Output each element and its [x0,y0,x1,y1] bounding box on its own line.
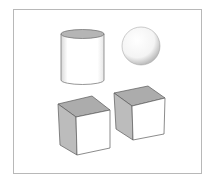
cylinder-shape [61,30,104,85]
3d-scene [0,0,214,181]
sphere-shape [122,27,160,65]
cube-right-shape [114,86,165,140]
cube-left-shape [58,96,110,155]
